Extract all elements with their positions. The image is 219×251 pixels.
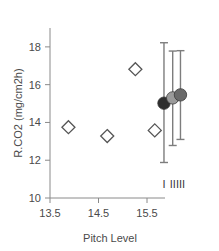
y-tick-label: 18 [29, 41, 41, 53]
y-tick-label: 10 [29, 192, 41, 204]
chart-container: 1012141618 13.514.515.5 IIIIII R.CO2 (mg… [0, 0, 219, 251]
y-axis-ticks: 1012141618 [29, 41, 50, 204]
x-tick-label: 15.5 [136, 207, 157, 219]
y-axis-title: R.CO2 (mg/cm2h) [12, 68, 24, 157]
y-tick-label: 12 [29, 154, 41, 166]
group-label-row: IIIIII [162, 178, 185, 190]
x-tick-label: 13.5 [39, 207, 60, 219]
observation-diamond [101, 130, 114, 143]
y-tick-label: 14 [29, 116, 41, 128]
x-axis-title: Pitch Level [83, 232, 137, 244]
observation-diamond [62, 121, 75, 134]
scatter-plot: 1012141618 13.514.515.5 IIIIII R.CO2 (mg… [0, 0, 219, 251]
x-tick-label: 14.5 [88, 207, 109, 219]
group-label: II [170, 178, 176, 190]
group-label: III [176, 178, 185, 190]
group-mean-circle [174, 89, 186, 101]
group-label: I [162, 178, 165, 190]
y-tick-label: 16 [29, 79, 41, 91]
observation-markers [62, 63, 161, 143]
x-axis-ticks: 13.514.515.5 [39, 198, 157, 219]
observation-diamond [129, 63, 142, 76]
observation-diamond [148, 124, 161, 137]
